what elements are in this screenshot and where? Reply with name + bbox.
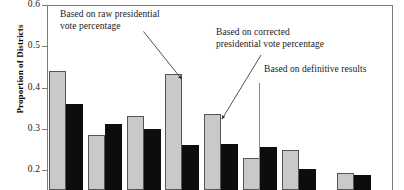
annotation-corrected-presidential: Based on corrected presidential vote per… (216, 27, 324, 50)
bar-series-1-category-1 (49, 71, 66, 190)
group-divider-line (259, 83, 260, 190)
bar-chart-figure: Proportion of Districts 0.60.50.40.30.2 … (0, 0, 404, 190)
bar-series-2-category-8 (354, 175, 371, 190)
bar-series-1-category-6 (243, 158, 260, 190)
y-axis-title: Proportion of Districts (15, 9, 25, 129)
bar-series-2-category-7 (299, 169, 316, 190)
bar-series-2-category-1 (66, 104, 83, 190)
bar-series-1-category-2 (88, 135, 105, 190)
y-tick-label: 0.6 (28, 0, 40, 10)
bar-series-2-category-3 (144, 129, 161, 190)
bar-series-2-category-6 (260, 147, 277, 190)
bar-series-1-category-8 (337, 173, 354, 190)
bar-series-1-category-5 (204, 114, 221, 190)
y-tick-label: 0.5 (28, 42, 40, 52)
y-tick-label: 0.3 (28, 124, 40, 134)
bar-series-1-category-3 (127, 116, 144, 190)
annotation-definitive-results: Based on definitive results (264, 64, 366, 76)
y-tick-label: 0.4 (28, 83, 40, 93)
annotation-raw-presidential: Based on raw presidential vote percentag… (60, 9, 160, 32)
y-tick-label: 0.2 (28, 165, 40, 175)
bar-series-1-category-7 (282, 150, 299, 190)
bar-series-2-category-4 (182, 145, 199, 190)
bar-series-2-category-5 (221, 144, 238, 190)
bar-series-2-category-2 (105, 124, 122, 190)
bar-series-1-category-4 (165, 74, 182, 190)
